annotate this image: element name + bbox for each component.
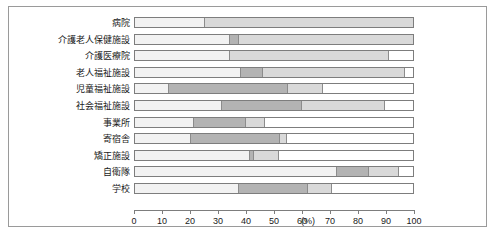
bar-segment	[135, 35, 230, 44]
x-axis-tick-label: 90	[381, 216, 391, 227]
bar-segment	[240, 68, 262, 77]
x-axis-tick	[246, 210, 247, 214]
bar-row	[134, 67, 414, 78]
bar-segment	[135, 18, 205, 27]
bar-row	[134, 100, 414, 111]
bar-row	[134, 117, 414, 128]
bar-segment	[135, 134, 191, 143]
bar-segment	[384, 101, 412, 110]
bar-segment	[245, 118, 265, 127]
x-axis-tick-label: 80	[353, 216, 363, 227]
bar-segment	[204, 18, 413, 27]
bar-row	[134, 183, 414, 194]
bar-row	[134, 34, 414, 45]
bar-segment	[221, 101, 302, 110]
bar-segment	[322, 84, 412, 93]
stacked-bar-chart: 病院介護老人保健施設介護医療院老人福祉施設児童福祉施設社会福祉施設事業所寄宿舎矯…	[9, 7, 488, 228]
bar-segment	[264, 118, 412, 127]
category-label: 介護医療院	[10, 51, 130, 61]
bar-segment	[135, 84, 169, 93]
category-label: 矯正施設	[10, 151, 130, 161]
x-axis-tick	[162, 210, 163, 214]
bar-segment	[388, 51, 413, 60]
bar-segment	[168, 84, 288, 93]
x-axis-tick	[358, 210, 359, 214]
x-axis-tick	[386, 210, 387, 214]
x-axis-tick	[274, 210, 275, 214]
bar-row	[134, 166, 414, 177]
x-axis-tick-label: 30	[213, 216, 223, 227]
category-label: 自衛隊	[10, 167, 130, 177]
category-label: 社会福祉施設	[10, 101, 130, 111]
x-axis-tick-label: 100	[406, 216, 421, 227]
x-axis-tick	[414, 210, 415, 214]
x-axis-tick-label: 40	[241, 216, 251, 227]
bar-row	[134, 17, 414, 28]
bar-segment	[286, 134, 412, 143]
bar-segment	[404, 68, 412, 77]
bar-segment	[287, 84, 323, 93]
bar-segment	[193, 118, 246, 127]
category-label: 病院	[10, 18, 130, 28]
category-label: 寄宿舎	[10, 134, 130, 144]
x-axis-tick	[218, 210, 219, 214]
bar-segment	[336, 167, 370, 176]
category-label: 事業所	[10, 118, 130, 128]
bar-segment	[253, 151, 278, 160]
bar-segment	[398, 167, 412, 176]
bar-segment	[262, 68, 405, 77]
bar-segment	[238, 35, 413, 44]
chart-frame: 病院介護老人保健施設介護医療院老人福祉施設児童福祉施設社会福祉施設事業所寄宿舎矯…	[8, 6, 487, 227]
x-axis-tick-label: 60	[297, 216, 307, 227]
bar-segment	[135, 51, 230, 60]
bar-segment	[331, 184, 412, 193]
bar-segment	[307, 184, 332, 193]
bar-segment	[278, 151, 412, 160]
bar-row	[134, 83, 414, 94]
x-axis-tick	[190, 210, 191, 214]
x-axis-tick	[302, 210, 303, 214]
x-axis-tick-label: 70	[325, 216, 335, 227]
bar-segment	[190, 134, 280, 143]
x-axis-tick-label: 20	[185, 216, 195, 227]
bar-segment	[301, 101, 385, 110]
category-label: 老人福祉施設	[10, 68, 130, 78]
bar-row	[134, 150, 414, 161]
bar-segment	[135, 101, 222, 110]
category-label: 学校	[10, 184, 130, 194]
category-label: 介護老人保健施設	[10, 35, 130, 45]
bar-row	[134, 50, 414, 61]
bar-segment	[135, 118, 194, 127]
x-axis-tick-label: 50	[269, 216, 279, 227]
x-axis-tick-label: 10	[157, 216, 167, 227]
bar-segment	[238, 184, 308, 193]
bar-row	[134, 133, 414, 144]
category-axis: 病院介護老人保健施設介護医療院老人福祉施設児童福祉施設社会福祉施設事業所寄宿舎矯…	[9, 7, 130, 228]
bar-segment	[135, 184, 239, 193]
x-axis-tick-label: 0	[131, 216, 136, 227]
category-label: 児童福祉施設	[10, 84, 130, 94]
x-axis-tick	[330, 210, 331, 214]
bar-segment	[135, 167, 337, 176]
bar-segment	[229, 51, 389, 60]
bar-segment	[368, 167, 399, 176]
bar-segment	[135, 68, 241, 77]
bar-segment	[135, 151, 250, 160]
x-axis-tick	[134, 210, 135, 214]
